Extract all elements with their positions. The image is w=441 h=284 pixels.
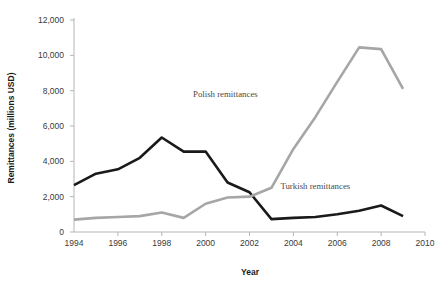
x-tick-label: 1996 — [108, 238, 127, 248]
chart-container: 02,0004,0006,0008,00010,00012,000 199419… — [0, 0, 441, 284]
y-tick-label: 2,000 — [43, 192, 65, 202]
y-tick-label: 12,000 — [38, 15, 64, 25]
x-tick-label: 1998 — [152, 238, 171, 248]
x-axis-title: Year — [241, 267, 260, 277]
annotation-turkish-remittances: Turkish remittances — [280, 181, 350, 191]
x-tick-label: 2006 — [328, 238, 347, 248]
x-tick-label: 2004 — [284, 238, 303, 248]
y-tick-label: 6,000 — [43, 121, 65, 131]
y-tick-label: 10,000 — [38, 50, 64, 60]
x-axis-tick-labels: 199419961998200020022004200620082010 — [65, 238, 435, 248]
y-tick-label: 8,000 — [43, 86, 65, 96]
remittances-line-chart: 02,0004,0006,0008,00010,00012,000 199419… — [0, 0, 441, 284]
y-tick-label: 0 — [59, 227, 64, 237]
annotation-polish-remittances: Polish remittances — [193, 89, 258, 99]
x-tick-label: 2002 — [240, 238, 259, 248]
y-axis-title: Remittances (millions USD) — [6, 72, 16, 183]
x-tick-label: 2010 — [416, 238, 435, 248]
x-tick-label: 2000 — [196, 238, 215, 248]
x-tick-label: 2008 — [372, 238, 391, 248]
x-tick-label: 1994 — [65, 238, 84, 248]
y-tick-label: 4,000 — [43, 156, 65, 166]
